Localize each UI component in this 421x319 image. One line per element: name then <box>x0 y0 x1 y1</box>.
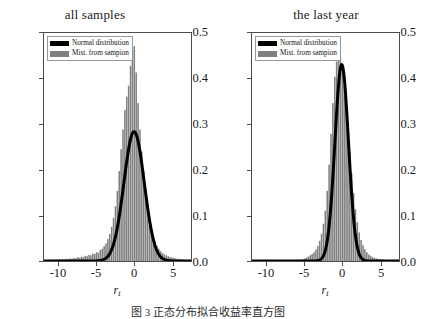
histogram-canvas <box>252 33 399 261</box>
panel-last-year: the last year Normal distribution Mist. … <box>208 0 416 300</box>
y-tick-label: 0.0 <box>382 255 416 270</box>
legend-item-hist: Mist. from sampion <box>50 49 129 58</box>
x-tick-mark <box>96 262 97 266</box>
y-tick-label: 0.3 <box>174 117 208 132</box>
y-tick-label: 0.2 <box>174 163 208 178</box>
legend-label-normal: Normal distribution <box>280 40 337 47</box>
y-tick-mark <box>247 216 251 217</box>
x-axis-label: rt <box>113 283 120 298</box>
y-tick-mark <box>39 170 43 171</box>
y-tick-mark <box>39 32 43 33</box>
panel-title: all samples <box>0 7 199 23</box>
legend-label-hist: Mist. from sampion <box>72 50 129 57</box>
y-tick-mark <box>247 78 251 79</box>
x-tick-mark <box>58 262 59 266</box>
x-tick-label: -10 <box>50 266 67 281</box>
x-tick-mark <box>173 262 174 266</box>
y-tick-label: 0.4 <box>382 71 416 86</box>
x-tick-label: 0 <box>131 266 137 281</box>
plot-area: Normal distribution Mist. from sampion <box>251 32 400 262</box>
x-tick-label: 5 <box>378 266 384 281</box>
x-axis-label: rt <box>321 283 328 298</box>
y-tick-mark <box>247 124 251 125</box>
x-tick-mark <box>134 262 135 266</box>
x-tick-mark <box>381 262 382 266</box>
y-tick-label: 0.4 <box>174 71 208 86</box>
panel-all-samples: all samples Normal distribution Mist. fr… <box>0 0 208 300</box>
x-tick-label: -5 <box>91 266 101 281</box>
x-tick-label: -10 <box>258 266 275 281</box>
y-tick-mark <box>247 261 251 262</box>
y-tick-label: 0.3 <box>382 117 416 132</box>
legend: Normal distribution Mist. from sampion <box>47 36 133 61</box>
x-tick-label: -5 <box>299 266 309 281</box>
legend: Normal distribution Mist. from sampion <box>255 36 341 61</box>
y-tick-mark <box>39 261 43 262</box>
legend-item-hist: Mist. from sampion <box>258 49 337 58</box>
x-tick-label: 0 <box>339 266 345 281</box>
y-tick-label: 0.5 <box>174 25 208 40</box>
plot-area: Normal distribution Mist. from sampion <box>43 32 192 262</box>
legend-swatch-normal-icon <box>258 41 277 46</box>
legend-label-hist: Mist. from sampion <box>280 50 337 57</box>
y-tick-label: 0.2 <box>382 163 416 178</box>
x-tick-mark <box>266 262 267 266</box>
y-tick-label: 0.0 <box>174 255 208 270</box>
y-tick-mark <box>247 32 251 33</box>
y-tick-mark <box>39 216 43 217</box>
legend-item-normal: Normal distribution <box>50 39 129 48</box>
y-tick-label: 0.1 <box>174 209 208 224</box>
x-tick-label: 5 <box>170 266 176 281</box>
histogram-canvas <box>44 33 191 261</box>
x-tick-mark <box>304 262 305 266</box>
y-tick-mark <box>247 170 251 171</box>
y-tick-label: 0.5 <box>382 25 416 40</box>
legend-item-normal: Normal distribution <box>258 39 337 48</box>
x-tick-mark <box>342 262 343 266</box>
legend-swatch-hist-icon <box>50 51 69 57</box>
legend-swatch-normal-icon <box>50 41 69 46</box>
panel-title: the last year <box>222 7 421 23</box>
y-tick-mark <box>39 124 43 125</box>
y-tick-label: 0.1 <box>382 209 416 224</box>
figure-caption: 图 3 正态分布拟合收益率直方图 <box>0 303 416 319</box>
legend-label-normal: Normal distribution <box>72 40 129 47</box>
legend-swatch-hist-icon <box>258 51 277 57</box>
y-tick-mark <box>39 78 43 79</box>
